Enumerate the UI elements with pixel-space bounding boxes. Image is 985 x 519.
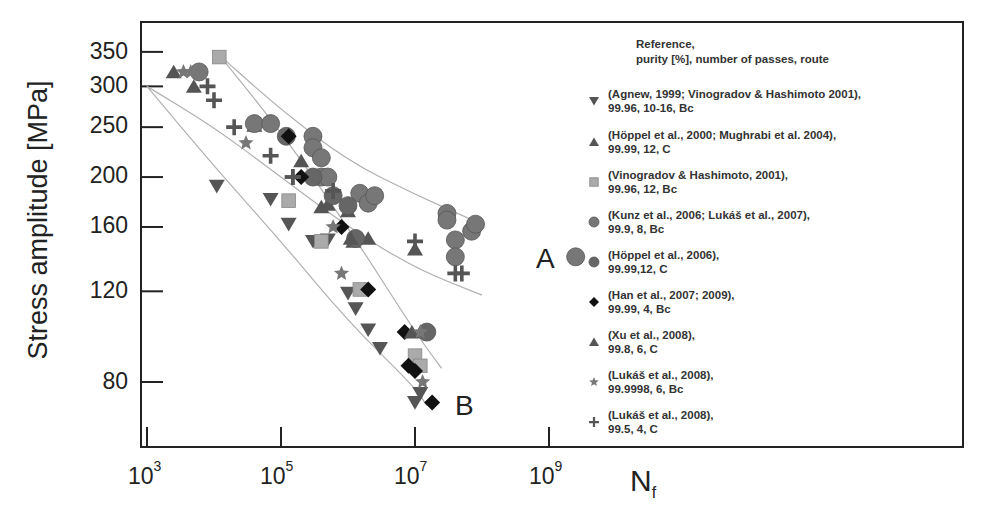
x-tick-label-1e3: 103: [128, 462, 161, 490]
y-tick-label-120: 120: [68, 277, 128, 304]
triangle-down-marker: [281, 218, 297, 232]
x-ticks: [147, 427, 549, 447]
circle-marker: [339, 197, 357, 215]
x-tick-label-1e5: 105: [260, 462, 293, 490]
square-marker: [282, 194, 296, 208]
triangle-up-marker: [589, 338, 599, 347]
triangle-down-marker: [209, 180, 225, 194]
y-tick-label-80: 80: [68, 368, 128, 395]
circle-marker: [589, 217, 599, 227]
plus-marker: [206, 92, 222, 108]
data-points: [166, 50, 585, 410]
legend-entry-hoppel-2006: (Höppel et al., 2006),99.99,12, C: [608, 248, 719, 276]
y-tick-label-250: 250: [68, 112, 128, 139]
triangle-down-marker: [589, 97, 599, 106]
triangle-up-marker: [293, 154, 309, 168]
triangle-down-marker: [407, 396, 423, 410]
circle-marker: [366, 187, 384, 205]
y-tick-label-300: 300: [68, 72, 128, 99]
triangle-down-marker: [372, 342, 388, 356]
plus-marker: [285, 169, 301, 185]
triangle-down-marker: [263, 193, 279, 207]
plot-frame: [141, 22, 963, 447]
x-tick-label-1e9: 109: [529, 462, 562, 490]
sn-chart: [0, 0, 985, 519]
plus-marker: [589, 417, 599, 427]
circle-marker: [589, 257, 599, 267]
triangle-up-marker: [589, 138, 599, 147]
band-curve: [219, 55, 441, 368]
circle-marker: [567, 248, 585, 266]
y-axis-title: Stress amplitude [MPa]: [8, 40, 68, 400]
legend-entry-kunz: (Kunz et al., 2006; Lukáš et al., 2007),…: [608, 208, 810, 236]
plus-marker: [407, 233, 423, 249]
legend-title: Reference, purity [%], number of passes,…: [636, 37, 829, 67]
star-marker: [589, 377, 599, 386]
legend-entry-lukas-c: (Lukáš et al., 2008),99.5, 4, C: [608, 408, 713, 436]
band-curve: [147, 86, 482, 295]
plus-marker: [226, 119, 242, 135]
y-tick-label-350: 350: [68, 38, 128, 65]
legend-entry-vinogradov: (Vinogradov & Hashimoto, 2001),99.96, 12…: [608, 168, 788, 196]
legend-entry-xu: (Xu et al., 2008),99.8, 6, C: [608, 328, 695, 356]
star-marker: [334, 265, 349, 280]
square-marker: [590, 178, 599, 187]
x-tick-label-1e7: 107: [394, 462, 427, 490]
x-axis-title: Nf: [630, 464, 656, 502]
plus-marker: [263, 148, 279, 164]
diamond-marker: [424, 394, 440, 410]
circle-marker: [446, 231, 464, 249]
legend-entry-han: (Han et al., 2007; 2009),99.99, 4, Bc: [608, 288, 735, 316]
square-marker: [315, 235, 329, 249]
y-tick-label-160: 160: [68, 212, 128, 239]
legend-entry-lukas-bc: (Lukáš et al., 2008),99.9998, 6, Bc: [608, 368, 713, 396]
y-tick-label-200: 200: [68, 162, 128, 189]
triangle-down-marker: [348, 302, 364, 316]
curve-label-a: A: [536, 243, 555, 275]
circle-marker: [262, 115, 280, 133]
legend-entry-hoppel-2000: (Höppel et al., 2000; Mughrabi et al. 20…: [608, 128, 836, 156]
curve-label-b: B: [455, 390, 474, 422]
square-marker: [213, 50, 227, 64]
circle-marker: [312, 149, 330, 167]
legend-entry-agnew: (Agnew, 1999; Vinogradov & Hashimoto 200…: [608, 87, 861, 115]
circle-marker: [467, 215, 485, 233]
band-curves: [147, 55, 482, 405]
legend-markers: [589, 97, 599, 427]
circle-marker: [245, 115, 263, 133]
circle-marker: [438, 211, 456, 229]
diamond-marker: [589, 297, 599, 307]
circle-marker: [446, 248, 464, 266]
